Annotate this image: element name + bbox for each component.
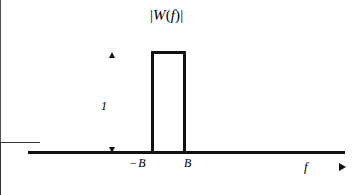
amplitude-dimension-line bbox=[0, 143, 1, 195]
negative-bandwidth-letter: B bbox=[138, 156, 145, 170]
magnitude-axis-line bbox=[0, 0, 1, 142]
amplitude-arrowhead-down-icon bbox=[109, 147, 115, 153]
frequency-axis-label: f bbox=[304, 160, 308, 173]
title-function-name: W bbox=[153, 7, 166, 23]
negative-bandwidth-label: −B bbox=[130, 157, 146, 169]
amplitude-extension-line bbox=[0, 142, 40, 143]
minus-sign-icon: − bbox=[130, 156, 137, 170]
frequency-arrow-head-icon bbox=[339, 163, 346, 171]
filter-spectrum-figure: 1 |W(f)| −B B f bbox=[0, 0, 363, 195]
pulse-top-edge bbox=[151, 51, 186, 54]
pulse-right-edge bbox=[183, 51, 186, 153]
spectrum-title: |W(f)| bbox=[150, 8, 183, 23]
amplitude-label: 1 bbox=[101, 100, 107, 112]
pulse-left-edge bbox=[151, 51, 154, 153]
title-bar-close: | bbox=[180, 7, 183, 23]
positive-bandwidth-label: B bbox=[184, 157, 191, 169]
frequency-axis-line bbox=[28, 151, 345, 154]
amplitude-arrowhead-up-icon bbox=[109, 52, 115, 58]
